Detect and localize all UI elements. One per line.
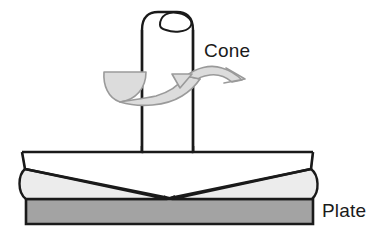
plate-label: Plate xyxy=(322,200,366,221)
weld-bead-right xyxy=(172,169,318,199)
cone-label: Cone xyxy=(204,40,250,61)
diagram-root: Cone Plate xyxy=(0,0,392,238)
base-plate-group xyxy=(26,199,313,224)
weld-bead-group xyxy=(20,146,318,199)
welding-schematic-diagram: Cone Plate xyxy=(0,0,392,238)
flange-left-wall xyxy=(22,152,25,169)
cone-top-face xyxy=(160,13,191,32)
rotation-arrow-left-band xyxy=(104,72,146,102)
flange-right-wall xyxy=(311,152,313,169)
base-plate-shape xyxy=(26,199,313,224)
